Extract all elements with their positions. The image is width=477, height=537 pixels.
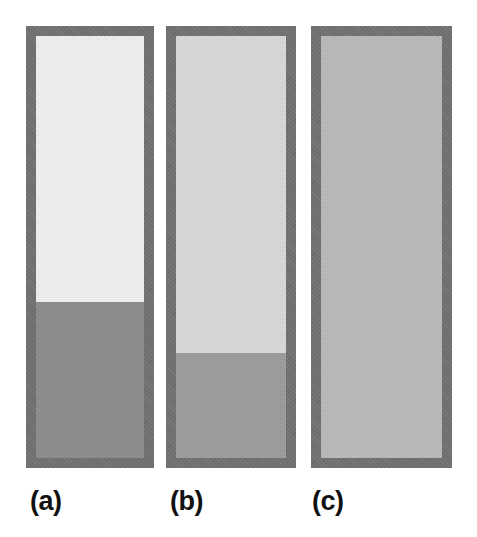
panel-c-frame <box>311 26 452 468</box>
panel-b-label: (b) <box>170 488 203 515</box>
panel-b-interior <box>176 36 286 458</box>
panel-c-label: (c) <box>312 488 344 515</box>
panel-a-frame <box>26 26 154 468</box>
panel-a-interior <box>36 36 144 458</box>
figure-root: (a) (b) (c) <box>0 0 477 537</box>
panel-c-lower-layer <box>321 36 442 458</box>
panel-a-label: (a) <box>30 488 62 515</box>
panel-b-lower-layer <box>176 353 286 459</box>
panel-a-upper-layer <box>36 36 144 302</box>
panel-b-frame <box>166 26 296 468</box>
panel-b-upper-layer <box>176 36 286 353</box>
panel-c-interior <box>321 36 442 458</box>
panel-a-lower-layer <box>36 302 144 458</box>
